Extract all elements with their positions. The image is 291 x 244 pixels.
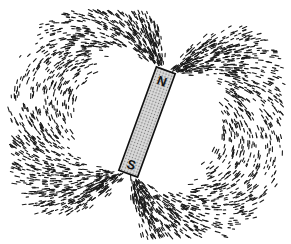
magnet-body <box>119 67 175 177</box>
field-diagram: N S <box>0 0 291 244</box>
bar-magnet: N S <box>119 67 175 177</box>
magnet-figure: N S <box>0 0 291 244</box>
